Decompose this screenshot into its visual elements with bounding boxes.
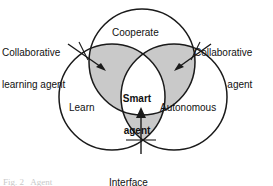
figure-root: Collaborative learning agent Collaborati… <box>0 0 273 186</box>
callout-label-collaborative-agent: Collaborative agent <box>194 26 252 112</box>
callout-line-2: agent <box>194 80 252 91</box>
center-label-smart-agent: Smart agent <box>113 72 161 158</box>
callout-line-1: Collaborative <box>194 48 252 59</box>
callout-line-2: learning agent <box>2 80 65 91</box>
callout-line-1: Interface <box>109 178 148 186</box>
callout-label-collaborative-learning-agent: Collaborative learning agent <box>2 26 65 112</box>
region-label-autonomous: Autonomous <box>160 103 216 114</box>
region-label-learn: Learn <box>69 103 95 114</box>
figure-caption: Fig. 2 Agent <box>3 177 52 186</box>
callout-line-1: Collaborative <box>2 48 65 59</box>
center-label-line-2: agent <box>113 126 161 137</box>
center-label-line-1: Smart <box>113 94 161 105</box>
callout-label-interface-agent: Interface agent <box>109 156 148 186</box>
region-label-cooperate: Cooperate <box>112 28 159 39</box>
